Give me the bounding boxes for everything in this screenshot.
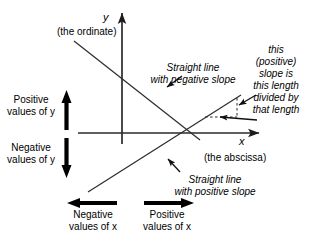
y-axis-label: y: [103, 12, 109, 24]
positive-x-label: Positive values of x: [136, 209, 198, 232]
x-axis-label: x: [239, 136, 245, 148]
positive-y-bold-arrow: [62, 90, 72, 130]
x-axis-note-label: (the abscissa): [204, 152, 266, 164]
positive-slope-callout-label: Straight line with positive slope: [163, 174, 267, 197]
positive-x-bold-arrow: [144, 198, 194, 208]
negative-slope-callout-label: Straight line with negative slope: [141, 62, 245, 85]
negative-x-label: Negative values of x: [62, 209, 124, 232]
y-axis-note-label: (the ordinate): [57, 26, 116, 38]
slope-diagram: y (the ordinate) x (the abscissa) Positi…: [0, 0, 313, 251]
positive-slope-callout-arrow: [168, 159, 180, 172]
slope-explanation-label: this (positive) slope is this length div…: [241, 44, 311, 116]
negative-x-bold-arrow: [67, 198, 117, 208]
negative-y-bold-arrow: [62, 138, 72, 178]
negative-slope-line: [74, 41, 200, 140]
negative-y-label: Negative values of y: [4, 142, 58, 165]
positive-y-label: Positive values of y: [4, 94, 58, 117]
run-callout-arrow: [220, 117, 257, 120]
